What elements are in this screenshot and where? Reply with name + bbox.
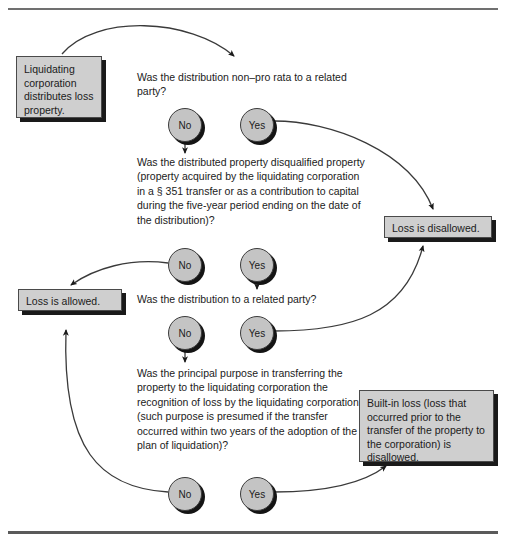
node-start-liquidating-distribution: Liquidating corporation distributes loss…: [16, 56, 102, 118]
question-principal-purpose: Was the principal purpose in transferrin…: [137, 366, 369, 452]
edge-q4yes-to-builtin: [274, 466, 386, 492]
edge-q2no-to-allowed: [71, 262, 168, 285]
flowchart-canvas: Liquidating corporation distributes loss…: [0, 0, 506, 547]
decision-q3-no[interactable]: No: [168, 316, 202, 350]
node-builtin-loss-disallowed: Built-in loss (loss that occurred prior …: [359, 390, 494, 462]
decision-q3-yes[interactable]: Yes: [240, 316, 274, 350]
decision-q1-no[interactable]: No: [168, 108, 202, 142]
top-divider-rule: [8, 8, 498, 10]
decision-q2-yes[interactable]: Yes: [240, 248, 274, 282]
question-disqualified-property: Was the distributed property disqualifie…: [137, 155, 369, 227]
edge-start-to-q1: [62, 26, 234, 56]
node-loss-disallowed: Loss is disallowed.: [384, 216, 492, 238]
decision-q4-yes[interactable]: Yes: [240, 477, 274, 511]
decision-q2-no[interactable]: No: [168, 248, 202, 282]
edge-q3yes-to-disallowed: [274, 246, 423, 331]
bottom-divider-rule: [8, 531, 498, 534]
question-non-pro-rata-related-party: Was the distribution non–pro rata to a r…: [137, 70, 369, 99]
decision-q4-no[interactable]: No: [168, 477, 202, 511]
question-distribution-to-related-party: Was the distribution to a related party?: [137, 292, 369, 306]
node-loss-allowed: Loss is allowed.: [18, 289, 122, 311]
decision-q1-yes[interactable]: Yes: [240, 108, 274, 142]
